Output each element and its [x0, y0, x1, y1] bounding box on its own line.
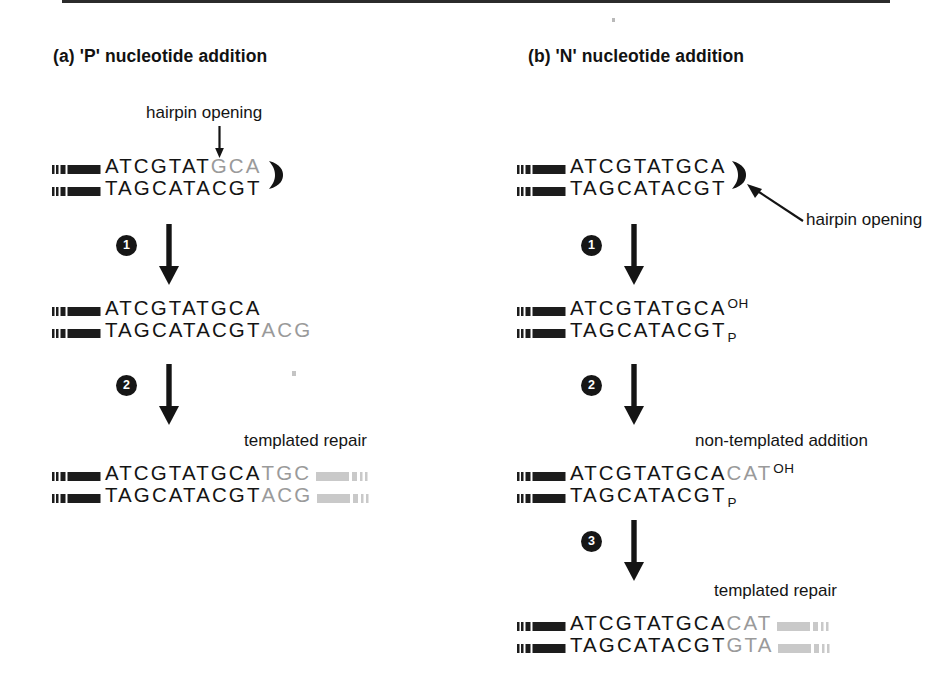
- figure-canvas: (a) 'P' nucleotide addition hairpin open…: [0, 0, 947, 679]
- hairpin-opening-label-b: hairpin opening: [806, 210, 922, 230]
- step-marker-b-1: 1: [581, 235, 602, 256]
- strand-bottom-b-2: TAGCATACGT P: [517, 319, 749, 341]
- coding-segment-bar-left-icon: [517, 622, 566, 631]
- non-templated-addition-label-b: non-templated addition: [695, 431, 868, 451]
- process-arrow-a-2: [157, 364, 181, 425]
- sequence-top-black-b-2: ATCGTATGCA: [570, 297, 727, 319]
- duplex-a-stage-3: ATCGTATGCA TGC: [52, 462, 377, 506]
- coding-segment-bar-left-icon: [52, 329, 101, 338]
- duplex-b-stage-2: ATCGTATGCA OH TAGCATACGT P: [517, 297, 749, 341]
- process-arrow-b-2: [622, 364, 646, 425]
- step-marker-a-1: 1: [116, 235, 137, 256]
- sequence-top-gray-b-3: CAT: [727, 462, 773, 484]
- panel-p-nucleotide-addition: (a) 'P' nucleotide addition hairpin open…: [0, 0, 470, 679]
- hydroxyl-label-b-2: OH: [728, 297, 749, 310]
- hydroxyl-label-b-3: OH: [773, 462, 794, 475]
- sequence-bottom-black-a-1: TAGCATACGT: [105, 177, 262, 199]
- coding-segment-bar-right-icon: [317, 494, 373, 503]
- hairpin-loop-icon-a-1: [268, 158, 284, 192]
- hairpin-opening-arrow-b: [746, 184, 806, 224]
- panel-n-nucleotide-addition: (b) 'N' nucleotide addition ATCGTATGCA: [470, 0, 947, 679]
- templated-repair-label-b: templated repair: [714, 581, 837, 601]
- phosphate-label-b-3: P: [728, 498, 737, 508]
- sequence-top-black-b-3: ATCGTATGCA: [570, 462, 727, 484]
- duplex-b-stage-3: ATCGTATGCA CAT OH TAGCATACGT P: [517, 462, 794, 506]
- coding-segment-bar-left-icon: [517, 187, 566, 196]
- sequence-bottom-gray-a-3: ACG: [262, 484, 313, 506]
- hairpin-opening-label-a: hairpin opening: [146, 103, 262, 123]
- templated-repair-label-a: templated repair: [244, 431, 367, 451]
- step-marker-a-2: 2: [116, 375, 137, 396]
- coding-segment-bar-left-icon: [52, 307, 101, 316]
- coding-segment-bar-left-icon: [517, 307, 566, 316]
- strand-bottom-a-3: TAGCATACGT ACG: [52, 484, 377, 506]
- coding-segment-bar-left-icon: [52, 165, 101, 174]
- sequence-bottom-gray-a-2: ACG: [262, 319, 313, 341]
- coding-segment-bar-left-icon: [52, 187, 101, 196]
- duplex-a-stage-2: ATCGTATGCA TAGCATACGT ACG: [52, 297, 312, 341]
- strand-top-a-2: ATCGTATGCA: [52, 297, 312, 319]
- duplex-a-stage-1: ATCGTAT GCA TAGCATACGT: [52, 155, 262, 199]
- sequence-top-gray-b-4: CAT: [727, 612, 773, 634]
- strand-top-b-3: ATCGTATGCA CAT OH: [517, 462, 794, 484]
- sequence-bottom-black-a-2: TAGCATACGT: [105, 319, 262, 341]
- sequence-top-black-a-3: ATCGTATGCA: [105, 462, 262, 484]
- coding-segment-bar-right-icon: [316, 472, 372, 481]
- duplex-b-stage-4: ATCGTATGCA CAT: [517, 612, 838, 656]
- sequence-bottom-black-b-4: TAGCATACGT: [570, 634, 727, 656]
- strand-bottom-b-1: TAGCATACGT: [517, 177, 727, 199]
- strand-bottom-a-2: TAGCATACGT ACG: [52, 319, 312, 341]
- coding-segment-bar-left-icon: [517, 472, 566, 481]
- panel-b-title: (b) 'N' nucleotide addition: [528, 46, 744, 67]
- coding-segment-bar-right-icon: [777, 622, 833, 631]
- strand-top-a-3: ATCGTATGCA TGC: [52, 462, 377, 484]
- strand-top-a-1: ATCGTAT GCA: [52, 155, 262, 177]
- hairpin-loop-icon-b-1: [731, 158, 747, 192]
- sequence-top-black-a-1: ATCGTAT: [105, 155, 211, 177]
- coding-segment-bar-left-icon: [517, 329, 566, 338]
- process-arrow-a-1: [157, 224, 181, 285]
- coding-segment-bar-left-icon: [517, 644, 566, 653]
- coding-segment-bar-left-icon: [517, 494, 566, 503]
- process-arrow-b-3: [622, 520, 646, 581]
- strand-bottom-a-1: TAGCATACGT: [52, 177, 262, 199]
- strand-top-b-1: ATCGTATGCA: [517, 155, 727, 177]
- coding-segment-bar-left-icon: [517, 165, 566, 174]
- strand-top-b-4: ATCGTATGCA CAT: [517, 612, 838, 634]
- process-arrow-b-1: [622, 224, 646, 285]
- sequence-top-black-b-4: ATCGTATGCA: [570, 612, 727, 634]
- sequence-top-black-b-1: ATCGTATGCA: [570, 155, 727, 177]
- panel-a-title: (a) 'P' nucleotide addition: [53, 46, 267, 67]
- strand-bottom-b-4: TAGCATACGT GTA: [517, 634, 838, 656]
- sequence-bottom-black-a-3: TAGCATACGT: [105, 484, 262, 506]
- strand-bottom-b-3: TAGCATACGT P: [517, 484, 794, 506]
- sequence-bottom-black-b-1: TAGCATACGT: [570, 177, 727, 199]
- step-marker-b-3: 3: [581, 531, 602, 552]
- coding-segment-bar-right-icon: [778, 644, 834, 653]
- coding-segment-bar-left-icon: [52, 494, 101, 503]
- coding-segment-bar-left-icon: [52, 472, 101, 481]
- sequence-bottom-black-b-2: TAGCATACGT: [570, 319, 727, 341]
- step-marker-b-2: 2: [581, 375, 602, 396]
- sequence-top-black-a-2: ATCGTATGCA: [105, 297, 262, 319]
- duplex-b-stage-1: ATCGTATGCA TAGCATACGT: [517, 155, 727, 199]
- sequence-top-gray-a-3: TGC: [262, 462, 312, 484]
- sequence-bottom-black-b-3: TAGCATACGT: [570, 484, 727, 506]
- sequence-top-gray-a-1: GCA: [211, 155, 262, 177]
- phosphate-label-b-2: P: [728, 333, 737, 343]
- sequence-bottom-gray-b-4: GTA: [727, 634, 774, 656]
- strand-top-b-2: ATCGTATGCA OH: [517, 297, 749, 319]
